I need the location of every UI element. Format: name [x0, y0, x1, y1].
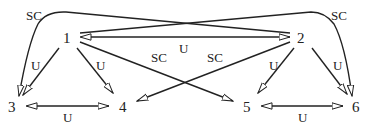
edge-label-1-6: SC	[331, 8, 347, 23]
edge-label-5-6: U	[298, 110, 308, 125]
node-5: 5	[243, 99, 251, 115]
edge-label-2-6: U	[333, 58, 343, 73]
edge-label-1-5: SC	[151, 50, 167, 65]
edge-label-2-4: SC	[207, 50, 223, 65]
edge-1-to-4	[77, 48, 113, 93]
edge-label-1-2: U	[179, 41, 189, 56]
edge-label-1-4: U	[96, 58, 106, 73]
edge-label-3-4: U	[63, 110, 73, 125]
graph-diagram: SC SC U U U SC SC U U U U 1 2 3 4 5 6	[0, 0, 370, 126]
edge-label-2-3: SC	[26, 8, 42, 23]
node-1: 1	[63, 30, 71, 46]
node-4: 4	[119, 99, 127, 115]
node-2: 2	[297, 30, 305, 46]
node-3: 3	[8, 99, 16, 115]
edge-1-to-3	[23, 48, 59, 95]
node-6: 6	[352, 99, 360, 115]
edge-label-2-5: U	[269, 58, 279, 73]
edge-label-1-3: U	[31, 58, 41, 73]
